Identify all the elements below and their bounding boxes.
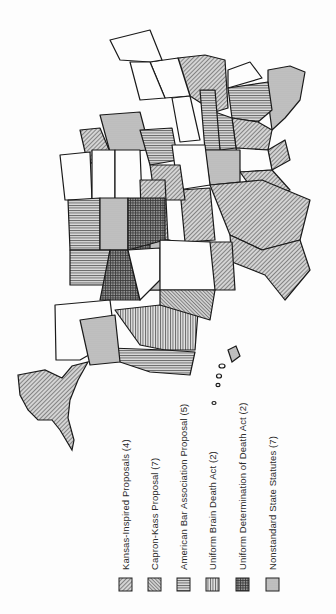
state-oregon — [100, 198, 128, 250]
legend-item-kansas: Kansas-Inspired Proposals (4) — [120, 439, 131, 570]
state-new-york — [228, 82, 272, 122]
legend-swatch-udda — [236, 578, 249, 591]
legend-label: Capron-Kass Proposal (7) — [149, 458, 160, 570]
state-minnesota — [110, 30, 162, 62]
map-states — [55, 30, 310, 375]
state-washington — [68, 198, 100, 250]
state-west-virginia — [236, 148, 272, 172]
legend-item-ubda: Uniform Brain Death Act (2) — [207, 451, 218, 570]
state-arizona — [160, 240, 215, 290]
legend-item-nonstandard: Nonstandard State Statutes (7) — [267, 436, 278, 570]
legend-swatch-capron-kass — [148, 578, 161, 591]
legend-label: Nonstandard State Statutes (7) — [267, 436, 278, 570]
legend-label: American Bar Association Proposal (5) — [178, 404, 189, 570]
legend-swatch-kansas — [119, 578, 132, 591]
state-tennessee — [180, 188, 215, 242]
state-north-dakota — [60, 152, 92, 200]
legend-swatch-nonstandard — [266, 578, 279, 591]
state-kentucky — [205, 150, 240, 185]
legend-label: Uniform Brain Death Act (2) — [207, 451, 218, 570]
state-oregon-south — [80, 315, 120, 365]
legend-swatches — [119, 578, 279, 591]
state-alaska — [18, 362, 88, 450]
legend-label: Kansas-Inspired Proposals (4) — [120, 439, 131, 570]
state-colorado — [115, 150, 142, 200]
state-southern-border — [110, 348, 195, 375]
us-brain-death-statutes-map — [0, 0, 336, 614]
legend-swatch-ubda — [206, 578, 219, 591]
state-illinois-strip — [172, 96, 200, 142]
legend-label: Uniform Determination of Death Act (2) — [237, 403, 248, 570]
legend-swatch-aba — [177, 578, 190, 591]
legend-item-aba: American Bar Association Proposal (5) — [178, 404, 189, 570]
state-maine — [268, 66, 305, 130]
legend-item-udda: Uniform Determination of Death Act (2) — [237, 403, 248, 570]
state-wyoming — [92, 150, 115, 200]
state-north-carolina — [210, 180, 310, 250]
legend-item-capron-kass: Capron-Kass Proposal (7) — [149, 458, 160, 570]
state-hawaii — [212, 346, 240, 405]
state-pennsylvania — [232, 118, 272, 150]
